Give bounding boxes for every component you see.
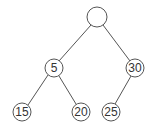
- node-25: 25: [102, 103, 120, 121]
- svg-text:20: 20: [74, 105, 88, 119]
- node-5: 5: [45, 59, 63, 77]
- node-30: 30: [126, 59, 144, 77]
- svg-text:25: 25: [104, 105, 118, 119]
- tree-diagram: 5 30 15 20 25: [0, 0, 156, 133]
- edge-root-30: [103, 25, 130, 61]
- edge-root-5: [59, 25, 91, 61]
- edge-5-20: [59, 76, 76, 104]
- svg-text:5: 5: [51, 61, 58, 75]
- node-root: [87, 7, 107, 27]
- svg-text:15: 15: [15, 105, 29, 119]
- edge-30-25: [115, 76, 131, 104]
- edge-5-15: [28, 75, 48, 105]
- node-15: 15: [13, 103, 31, 121]
- svg-text:30: 30: [128, 61, 142, 75]
- node-20: 20: [72, 103, 90, 121]
